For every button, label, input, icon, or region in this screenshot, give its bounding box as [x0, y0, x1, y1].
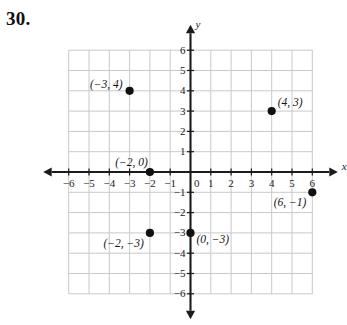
- x-axis-tick-label: −6: [63, 178, 75, 189]
- plotted-point: [308, 188, 316, 196]
- y-axis-tick-label: −5: [174, 268, 186, 279]
- y-axis-tick-label: 4: [180, 85, 186, 96]
- x-axis-tick-label: −2: [144, 178, 156, 189]
- y-axis-tick-label: 2: [180, 126, 186, 137]
- plotted-point: [146, 168, 154, 176]
- y-axis-tick-label: 3: [180, 106, 186, 117]
- point-coordinate-label: (6, −1): [274, 197, 307, 209]
- x-axis-arrow-left: [43, 167, 52, 176]
- y-axis-tick-label: −6: [174, 288, 186, 299]
- x-axis-tick-label: 6: [310, 178, 316, 189]
- plotted-point: [146, 229, 154, 237]
- y-axis-tick-label: −2: [174, 207, 186, 218]
- x-axis-tick-label: 4: [269, 178, 275, 189]
- plotted-points: [126, 87, 317, 237]
- plotted-point: [126, 87, 134, 95]
- y-axis-tick-label: −3: [174, 227, 186, 238]
- x-axis-tick-label: −4: [103, 178, 115, 189]
- plotted-point: [186, 229, 194, 237]
- x-axis-tick-label: 5: [289, 178, 295, 189]
- plotted-point: [268, 107, 276, 115]
- point-coordinate-label: (−3, 4): [90, 79, 123, 91]
- y-axis-label: y: [196, 19, 201, 30]
- y-axis-tick-label: −4: [174, 248, 186, 259]
- y-axis-tick-label: 6: [180, 45, 186, 56]
- point-coordinate-label: (−2, −3): [103, 238, 143, 250]
- y-axis-tick-label: 5: [180, 65, 186, 76]
- x-axis-tick-label: 3: [249, 178, 255, 189]
- x-axis-label: x: [342, 161, 347, 172]
- y-axis-tick-label: 1: [180, 146, 186, 157]
- y-axis-arrow-up: [186, 25, 195, 34]
- worksheet-page: 30. −6−5−4−3−2−10123456−6−5−4−3−2−112345…: [0, 0, 347, 325]
- x-axis-tick-label: 0: [194, 178, 200, 189]
- y-axis-tick-label: −1: [174, 187, 186, 198]
- x-axis-arrow-right: [329, 167, 338, 176]
- y-axis-arrow-down: [186, 311, 195, 320]
- coordinate-plane-graph: −6−5−4−3−2−10123456−6−5−4−3−2−1123456xy(…: [0, 0, 347, 325]
- x-axis-tick-label: −3: [124, 178, 136, 189]
- x-axis-tick-label: −5: [83, 178, 95, 189]
- point-coordinate-label: (4, 3): [278, 97, 303, 109]
- point-coordinate-label: (0, −3): [197, 234, 230, 246]
- point-coordinate-label: (−2, 0): [115, 157, 148, 169]
- x-axis-tick-label: 1: [208, 178, 214, 189]
- x-axis-tick-label: 2: [228, 178, 234, 189]
